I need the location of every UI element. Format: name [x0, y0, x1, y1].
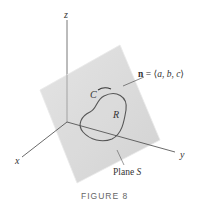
plane-s: [40, 45, 160, 183]
y-axis-label: y: [179, 149, 185, 160]
curve-c-label: C: [90, 89, 97, 100]
region-r-label: R: [112, 109, 119, 120]
figure-caption: FIGURE 8: [81, 191, 128, 201]
x-axis-label: x: [14, 155, 20, 166]
normal-vector-label: n = ⟨a, b, c⟩: [138, 69, 184, 79]
z-axis-label: z: [63, 9, 68, 20]
plane-s-label: Plane S: [113, 167, 141, 177]
surface-diagram: z x y C R n = ⟨a, b, c⟩ Plane S FIGURE 8: [0, 0, 210, 209]
